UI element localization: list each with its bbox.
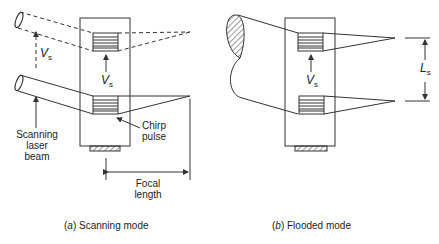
spacing-label: Ls (420, 63, 431, 78)
chirp-pulse-lower (93, 96, 118, 114)
chirp-pulse-lower (299, 96, 324, 114)
velocity-label-outside: Vs (40, 48, 52, 63)
velocity-label: Vs (306, 75, 318, 90)
chirp-pulse-upper (93, 33, 118, 51)
diagram-canvas (0, 0, 439, 244)
panel-b-flooded-mode (227, 15, 430, 151)
sensor-mount (90, 146, 120, 151)
caption-panel-b: (b) Flooded mode (272, 220, 351, 231)
chirp-pointer-arrow (117, 118, 140, 128)
flooded-beam-shape (227, 15, 244, 58)
sensor-mount (295, 146, 327, 151)
chirp-pulse-upper (298, 33, 323, 51)
chirp-pulse-label: Chirp pulse (138, 120, 170, 142)
velocity-label-inside: Vs (101, 75, 113, 90)
focal-length-label: Focal length (130, 178, 166, 200)
caption-panel-a: (a) Scanning mode (64, 220, 149, 231)
scanning-laser-beam-label: Scanning laser beam (14, 129, 60, 162)
